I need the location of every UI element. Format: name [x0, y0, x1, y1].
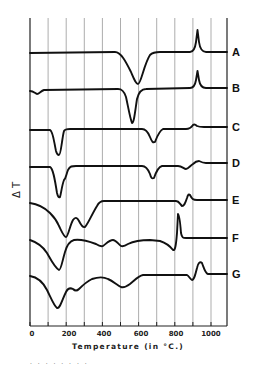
x-tick-800: 800	[169, 330, 184, 338]
curve-d	[30, 161, 227, 197]
series-label-b: B	[232, 82, 240, 94]
x-axis-title: Temperature (in °C.)	[72, 342, 184, 351]
plot-frame	[30, 18, 227, 326]
series-labels: A B C D E F G	[232, 46, 241, 280]
curve-b	[30, 71, 227, 123]
x-tick-400: 400	[97, 330, 112, 338]
y-axis-title: Δ T	[11, 181, 22, 198]
dta-chart: A B C D E F G 0 200 400 600 800 1000 Tem…	[0, 0, 256, 367]
x-tick-600: 600	[134, 330, 149, 338]
x-tick-0: 0	[30, 330, 35, 338]
x-tick-labels: 0 200 400 600 800 1000	[30, 330, 221, 338]
series-label-a: A	[232, 46, 240, 58]
series-label-g: G	[232, 268, 241, 280]
curve-f	[30, 214, 227, 270]
figure-caption-fragment: . . . . . . . .	[30, 358, 89, 365]
series-label-c: C	[232, 121, 240, 133]
vertical-gridlines	[48, 18, 211, 326]
x-tick-200: 200	[62, 330, 77, 338]
x-tick-1000: 1000	[201, 330, 221, 338]
series-label-e: E	[232, 194, 239, 206]
curve-e	[30, 194, 227, 237]
series-label-f: F	[232, 232, 239, 244]
curve-c	[30, 124, 227, 155]
series-label-d: D	[232, 157, 240, 169]
